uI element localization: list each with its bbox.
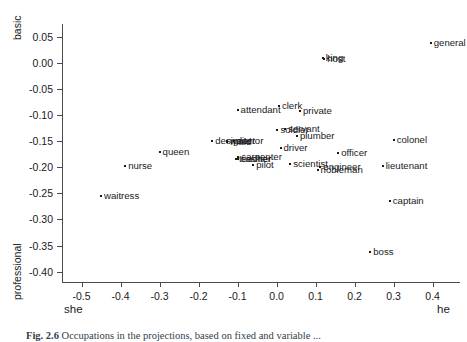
x-axis-right-label: he [437, 304, 450, 316]
x-tick-label: 0.4 [425, 291, 440, 302]
data-point-label: colonel [394, 135, 427, 145]
y-tick-label: -0.30 [29, 214, 53, 225]
y-tick-label: -0.25 [29, 188, 53, 199]
x-tick-mark [121, 282, 122, 287]
y-tick-label: -0.05 [29, 84, 53, 95]
data-point-label: host [324, 54, 345, 64]
figure-caption: Fig. 2.6 Occupations in the projections,… [26, 330, 456, 342]
data-point-label: waitress [101, 191, 139, 201]
y-tick-label: 0.05 [33, 32, 53, 43]
x-tick-label: 0.0 [269, 291, 284, 302]
y-tick-mark [57, 37, 62, 38]
y-axis-line [62, 24, 63, 282]
data-point-label: nurse [125, 161, 152, 171]
caption-text: Occupations in the projections, based on… [62, 330, 321, 341]
x-tick-label: 0.2 [347, 291, 362, 302]
x-tick-mark [316, 282, 317, 287]
y-tick-label: -0.40 [29, 266, 53, 277]
data-point-label: plumber [297, 131, 335, 141]
x-tick-mark [277, 282, 278, 287]
x-axis-line [62, 282, 460, 283]
y-tick-mark [57, 219, 62, 220]
x-tick-mark [433, 282, 434, 287]
y-tick-label: -0.20 [29, 162, 53, 173]
x-tick-mark [238, 282, 239, 287]
y-tick-mark [57, 272, 62, 273]
x-tick-label: -0.3 [151, 291, 169, 302]
data-point-label: nobleman [318, 166, 363, 176]
x-tick-mark [199, 282, 200, 287]
data-point-label: captain [390, 196, 424, 206]
x-tick-label: -0.5 [72, 291, 90, 302]
x-tick-mark [160, 282, 161, 287]
data-point-label: attendant [238, 105, 281, 115]
data-point-label: driver [281, 143, 308, 153]
x-tick-label: 0.3 [386, 291, 401, 302]
y-tick-label: -0.15 [29, 136, 53, 147]
x-tick-mark [355, 282, 356, 287]
y-tick-mark [57, 167, 62, 168]
y-tick-label: 0.00 [33, 58, 53, 69]
x-axis-left-label: she [64, 304, 83, 316]
plot-area: 0.050.00-0.05-0.10-0.15-0.20-0.25-0.30-0… [62, 24, 460, 282]
x-tick-label: 0.1 [308, 291, 323, 302]
data-point-label: pilot [253, 160, 274, 170]
data-point-label: doctor [234, 136, 264, 146]
data-point-label: boss [370, 247, 393, 257]
x-tick-label: -0.2 [190, 291, 208, 302]
data-point-label: general [431, 38, 466, 48]
x-tick-label: -0.4 [111, 291, 129, 302]
caption-figure-number: Fig. 2.6 [26, 330, 59, 341]
x-tick-mark [82, 282, 83, 287]
data-point-label: officer [338, 148, 367, 158]
x-tick-mark [394, 282, 395, 287]
data-point-label: lieutenant [383, 161, 428, 171]
y-axis-top-label: basic [12, 15, 23, 40]
y-tick-mark [57, 141, 62, 142]
y-tick-mark [57, 193, 62, 194]
y-tick-mark [57, 115, 62, 116]
y-tick-label: -0.10 [29, 110, 53, 121]
data-point-label: queen [160, 147, 190, 157]
y-tick-mark [57, 89, 62, 90]
data-point-label: private [300, 106, 332, 116]
x-tick-label: -0.1 [229, 291, 247, 302]
y-tick-mark [57, 63, 62, 64]
y-tick-mark [57, 246, 62, 247]
y-tick-label: -0.35 [29, 240, 53, 251]
y-axis-bottom-label: professional [12, 243, 23, 300]
